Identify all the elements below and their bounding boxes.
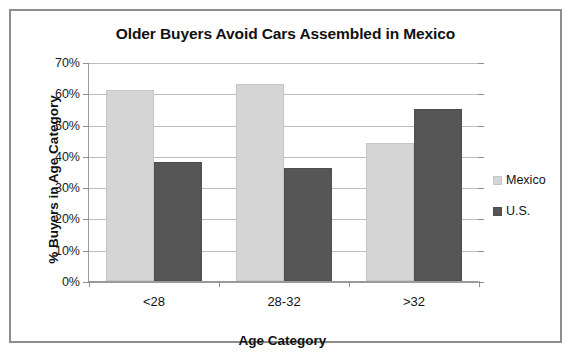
gridline bbox=[89, 282, 478, 283]
y-axis-tick-label: 40% bbox=[55, 150, 80, 164]
chart-title: Older Buyers Avoid Cars Assembled in Mex… bbox=[11, 25, 560, 43]
x-axis-tick-mark bbox=[219, 281, 220, 287]
legend-label: U.S. bbox=[506, 204, 530, 218]
y-axis-tick-label: 60% bbox=[55, 87, 80, 101]
y-axis-tick-label: 30% bbox=[55, 181, 80, 195]
chart-legend: MexicoU.S. bbox=[493, 173, 563, 235]
legend-entry-us[interactable]: U.S. bbox=[493, 204, 563, 218]
x-axis-tick-mark bbox=[479, 281, 480, 287]
y-axis-tick-label: 70% bbox=[55, 56, 80, 70]
y-axis-tick-label: 20% bbox=[55, 212, 80, 226]
legend-swatch-icon bbox=[493, 176, 502, 185]
legend-label: Mexico bbox=[506, 173, 546, 187]
bar-group bbox=[89, 63, 479, 281]
y-axis-tick-label: 10% bbox=[55, 244, 80, 258]
bar-mexico-2 bbox=[366, 143, 414, 281]
x-axis-tick-mark bbox=[349, 281, 350, 287]
bar-us-2 bbox=[414, 109, 462, 281]
y-axis-tick-label: 0% bbox=[62, 275, 80, 289]
plot-area: 0%10%20%30%40%50%60%70% <2828-32>32 bbox=[88, 63, 478, 282]
legend-entry-mexico[interactable]: Mexico bbox=[493, 173, 563, 187]
x-axis-tick-label: 28-32 bbox=[267, 294, 300, 309]
x-axis-title: Age Category bbox=[88, 333, 477, 348]
y-axis-tick-label: 50% bbox=[55, 119, 80, 133]
x-axis-tick-label: >32 bbox=[403, 294, 425, 309]
legend-swatch-icon bbox=[493, 207, 502, 216]
chart-frame: Older Buyers Avoid Cars Assembled in Mex… bbox=[9, 9, 562, 343]
x-axis-tick-label: <28 bbox=[143, 294, 165, 309]
x-axis-tick-mark bbox=[89, 281, 90, 287]
